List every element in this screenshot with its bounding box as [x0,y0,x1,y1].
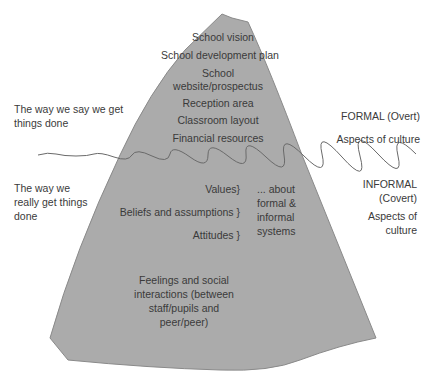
right-sublabel-formal: Aspects of culture [337,133,420,146]
below-item-beliefs: Beliefs and assumptions } [120,206,240,219]
deep-item-line1: Feelings and social [139,274,229,287]
above-item-development-plan: School development plan [161,49,279,62]
above-item-website-prospectus: website/prospectus [173,80,263,93]
right-sublabel-informal-line2: culture [385,224,417,237]
bracket-note-line2: formal & [257,197,296,210]
left-label-formal-line2: things done [14,117,68,130]
below-item-values: Values} [205,183,240,196]
deep-item-line4: peer/peer) [160,316,208,329]
left-label-informal-line1: The way we [14,182,70,195]
left-label-informal-line2: really get things [14,196,88,209]
above-item-reception-area: Reception area [182,97,253,110]
left-label-formal-line1: The way we say we get [14,103,123,116]
below-item-attitudes: Attitudes } [193,229,240,242]
right-sublabel-informal-line1: Aspects of [368,210,417,223]
above-item-financial-resources: Financial resources [172,132,263,145]
above-item-school: School [202,67,234,80]
deep-item-line3: staff/pupils and [149,302,219,315]
left-label-informal-line3: done [14,210,37,223]
above-item-school-vision: School vision [192,31,254,44]
right-label-informal-line1: INFORMAL [363,178,417,191]
bracket-note-line3: informal [257,211,294,224]
above-item-classroom-layout: Classroom layout [177,114,258,127]
right-label-informal-line2: (Covert) [379,192,417,205]
right-label-formal: FORMAL (Overt) [341,110,420,123]
deep-item-line2: interactions (between [134,288,234,301]
bracket-note-line4: systems [257,225,296,238]
bracket-note-line1: ... about [257,183,295,196]
